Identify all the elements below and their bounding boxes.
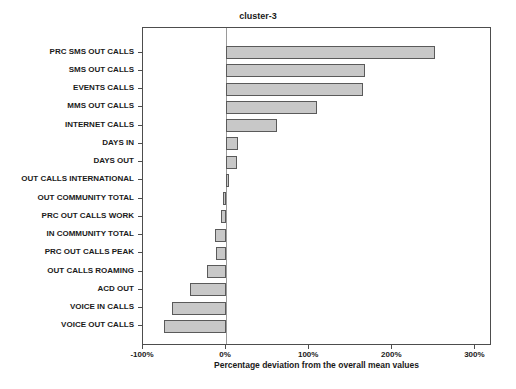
y-axis-label: DAYS OUT (93, 156, 134, 166)
bar-out-calls-roaming (207, 265, 226, 278)
x-axis-tick-label: 300% (449, 350, 499, 359)
y-axis-label: EVENTS CALLS (73, 83, 134, 93)
y-axis-tick (138, 198, 142, 199)
x-axis-tick-label: 100% (283, 350, 333, 359)
y-axis-tick (138, 325, 142, 326)
y-axis-label: OUT CALLS ROAMING (47, 266, 134, 276)
bar-days-out (226, 156, 237, 169)
y-axis-tick (138, 289, 142, 290)
y-axis-tick (138, 161, 142, 162)
y-axis-tick (138, 234, 142, 235)
bar-prc-sms-out-calls (226, 46, 435, 59)
y-axis-tick (138, 88, 142, 89)
bar-out-community-total (223, 192, 226, 205)
x-axis-tick (391, 345, 392, 349)
bar-voice-out-calls (164, 320, 226, 333)
y-axis-label: OUT CALLS INTERNATIONAL (21, 174, 134, 184)
plot-area (142, 27, 491, 345)
bar-prc-out-calls-peak (216, 247, 226, 260)
bar-days-in (226, 137, 238, 150)
y-axis-label: INTERNET CALLS (65, 120, 134, 130)
y-axis-label: DAYS IN (102, 138, 134, 148)
bar-in-community-total (215, 229, 226, 242)
y-axis-tick (138, 216, 142, 217)
bar-out-calls-international (226, 174, 229, 187)
y-axis-label: MMS OUT CALLS (67, 101, 134, 111)
y-axis-tick (138, 143, 142, 144)
y-axis-tick (138, 125, 142, 126)
bar-voice-in-calls (172, 302, 226, 315)
x-axis-tick (474, 345, 475, 349)
y-axis-label: VOICE IN CALLS (70, 302, 134, 312)
x-axis-tick-label: 0% (200, 350, 250, 359)
y-axis-label: IN COMMUNITY TOTAL (46, 229, 134, 239)
y-axis-label: ACD OUT (98, 284, 134, 294)
bar-acd-out (190, 283, 227, 296)
x-axis-tick-label: -100% (117, 350, 167, 359)
y-axis-tick (138, 52, 142, 53)
x-axis-label: Percentage deviation from the overall me… (142, 360, 491, 370)
y-axis-tick (138, 307, 142, 308)
y-axis-label: OUT COMMUNITY TOTAL (38, 193, 134, 203)
y-axis-tick (138, 70, 142, 71)
y-axis-tick (138, 179, 142, 180)
x-axis-tick (308, 345, 309, 349)
y-axis-label: SMS OUT CALLS (69, 65, 134, 75)
x-axis-tick (142, 345, 143, 349)
bar-sms-out-calls (226, 64, 365, 77)
y-axis-tick (138, 106, 142, 107)
x-axis-tick (225, 345, 226, 349)
bar-mms-out-calls (226, 101, 317, 114)
y-axis-label: PRC SMS OUT CALLS (50, 47, 134, 57)
bar-internet-calls (226, 119, 277, 132)
bar-events-calls (226, 83, 363, 96)
y-axis-label: PRC OUT CALLS PEAK (45, 247, 134, 257)
chart-title: cluster-3 (0, 11, 516, 21)
y-axis-label: VOICE OUT CALLS (61, 320, 134, 330)
y-axis-tick (138, 271, 142, 272)
bar-chart-figure: cluster-3 Percentage deviation from the … (0, 0, 516, 389)
x-axis-tick-label: 200% (366, 350, 416, 359)
y-axis-tick (138, 252, 142, 253)
bar-prc-out-calls-work (221, 210, 226, 223)
y-axis-label: PRC OUT CALLS WORK (42, 211, 134, 221)
